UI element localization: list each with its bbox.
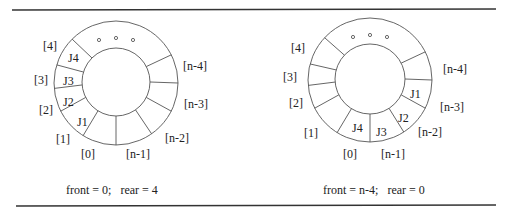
queue-element: J1 — [410, 87, 421, 101]
ellipsis-dots — [97, 36, 134, 41]
slot-divider — [136, 110, 152, 134]
queue-element: J2 — [398, 111, 409, 125]
slot-index-label: [2] — [289, 96, 303, 110]
slot-index-label: [1] — [304, 126, 318, 140]
ellipsis-dots — [351, 33, 388, 38]
slot-divider — [57, 65, 84, 72]
circular-queue-figure: [0][1][2][3][4][n-4][n-3][n-2][n-1]J4J3J… — [0, 0, 509, 216]
slot-index-label: [n-2] — [418, 125, 442, 139]
slot-index-label: [n-4] — [183, 59, 207, 73]
queue-element: J4 — [352, 121, 363, 135]
circular-queue-right: [4][3][2][1][0][n-1][n-2][n-3][n-4]J1J2J… — [283, 18, 467, 197]
slot-divider — [325, 38, 345, 55]
slot-index-label: [2] — [39, 103, 53, 117]
slot-index-label: [n-3] — [440, 100, 464, 114]
slot-divider — [315, 95, 339, 108]
queue-element: J3 — [376, 125, 387, 139]
slot-index-label: [3] — [283, 70, 297, 84]
inner-ring — [82, 48, 150, 116]
slot-index-label: [3] — [34, 73, 48, 87]
queue-diagrams: [0][1][2][3][4][n-4][n-3][n-2][n-1]J4J3J… — [34, 18, 467, 197]
queue-state-caption: front = n-4; rear = 0 — [323, 183, 425, 197]
top-rule — [12, 9, 496, 10]
slot-index-label: [0] — [81, 147, 95, 161]
slot-index-label: [1] — [56, 132, 70, 146]
slot-divider — [401, 52, 425, 63]
slot-index-label: [n-3] — [184, 97, 208, 111]
slot-index-label: [n-4] — [443, 62, 467, 76]
queue-element: J3 — [63, 74, 74, 88]
queue-element: J4 — [68, 51, 79, 65]
circular-queue-left: [0][1][2][3][4][n-4][n-3][n-2][n-1]J4J3J… — [34, 21, 208, 197]
slot-divider — [146, 55, 171, 67]
slot-index-label: [n-2] — [165, 131, 189, 145]
slot-divider — [308, 82, 335, 85]
slot-divider — [310, 64, 336, 70]
queue-element: J1 — [77, 115, 88, 129]
slot-index-label: [0] — [343, 147, 357, 161]
slot-index-label: [4] — [291, 41, 305, 55]
queue-element: J2 — [63, 95, 74, 109]
slot-divider — [146, 97, 171, 111]
bottom-rule — [16, 205, 496, 206]
slot-divider — [337, 109, 351, 133]
queue-state-caption: front = 0; rear = 4 — [66, 183, 158, 197]
slot-index-label: [n-1] — [381, 147, 405, 161]
inner-ring — [335, 44, 405, 114]
slot-divider — [405, 79, 432, 80]
slot-divider — [150, 82, 178, 83]
slot-index-label: [n-1] — [126, 147, 150, 161]
slot-index-label: [4] — [43, 39, 57, 53]
